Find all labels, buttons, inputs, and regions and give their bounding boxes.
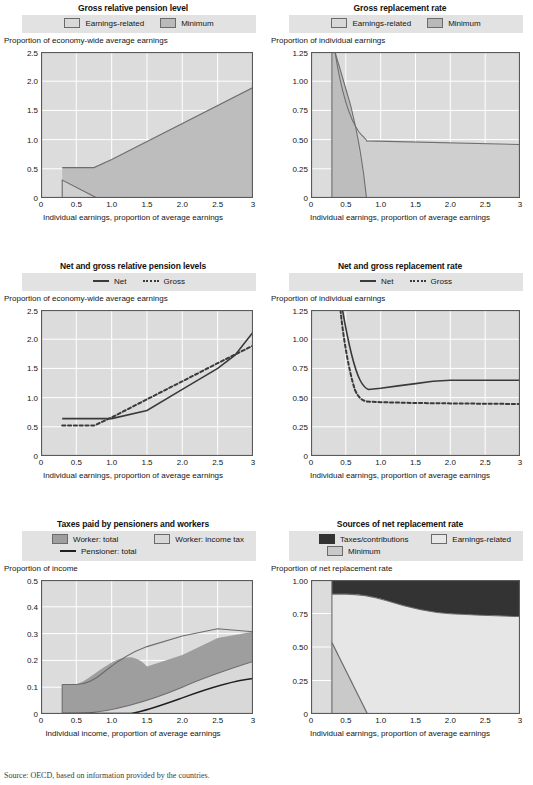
legend-item-minimum: Minimum	[327, 546, 380, 556]
legend-label: Pensioner: total	[81, 547, 137, 556]
chart-legend: Earnings-related Minimum	[22, 15, 256, 33]
panel-taxes-paid-by-pensioners-and-workers: Taxes paid by pensioners and workers Wor…	[0, 516, 266, 771]
chart-title: Gross replacement rate	[267, 3, 533, 13]
panel-sources-of-net-replacement-rate: Sources of net replacement rate Taxes/co…	[267, 516, 533, 771]
y-axis-title: Proportion of income	[4, 564, 78, 573]
chart-title: Net and gross replacement rate	[267, 261, 533, 271]
plot-svg	[311, 52, 520, 198]
y-axis-title: Proportion of net replacement rate	[271, 564, 392, 573]
x-tick: 0.5	[340, 458, 351, 467]
legend-item-minimum: Minimum	[427, 18, 480, 28]
plot-area: 0 0.1 0.2 0.3 0.4 0.5 0 0.5 1.0 1.5 2.0 …	[41, 580, 253, 714]
y-tick: 0.75	[292, 106, 308, 115]
plot-svg	[41, 52, 253, 198]
legend-label: Earnings-related	[352, 19, 411, 28]
legend-item-gross: Gross	[410, 277, 452, 286]
x-tick: 2.5	[212, 458, 223, 467]
chart-legend: Earnings-related Minimum	[289, 15, 523, 33]
solid-line-icon	[360, 280, 376, 282]
plot-area: 0 0.5 1.0 1.5 2.0 2.5 0 0.5 1.0 1.5 2.0 …	[41, 310, 253, 456]
x-tick: 0	[309, 200, 313, 209]
y-axis-title: Proportion of economy-wide average earni…	[4, 294, 168, 303]
legend-item-earnings-related: Earnings-related	[64, 18, 144, 28]
y-tick: 0.75	[292, 364, 308, 373]
legend-swatch-icon	[154, 534, 170, 544]
y-tick: 0	[34, 452, 38, 461]
y-tick: 0.1	[27, 683, 38, 692]
x-tick: 1.5	[410, 458, 421, 467]
legend-item-gross: Gross	[143, 277, 185, 286]
source-note: Source: OECD, based on information provi…	[4, 771, 210, 780]
y-tick: 0.50	[292, 135, 308, 144]
x-tick: 0.5	[71, 716, 82, 725]
legend-swatch-icon	[319, 534, 335, 544]
legend-label: Gross	[431, 277, 452, 286]
legend-label: Net	[114, 277, 126, 286]
panel-gross-replacement-rate: Gross replacement rate Earnings-related …	[267, 0, 533, 255]
y-tick: 1.25	[292, 49, 308, 58]
dotted-line-icon	[410, 280, 426, 282]
y-tick: 1.00	[292, 77, 308, 86]
solid-line-icon	[93, 280, 109, 282]
x-tick: 1.5	[141, 716, 152, 725]
plot-svg	[41, 310, 253, 456]
x-axis-title: Individual earnings, proportion of avera…	[0, 213, 266, 222]
y-tick: 0	[34, 710, 38, 719]
legend-item-pensioner-total: Pensioner: total	[60, 547, 137, 556]
legend-label: Minimum	[448, 19, 480, 28]
x-tick: 3	[251, 458, 255, 467]
y-tick: 2.0	[27, 335, 38, 344]
legend-swatch-icon	[427, 18, 443, 28]
y-tick: 0.25	[292, 164, 308, 173]
y-axis-title: Proportion of individual earnings	[271, 294, 385, 303]
chart-title: Net and gross relative pension levels	[0, 261, 266, 271]
x-axis-title: Individual earnings, proportion of avera…	[267, 213, 533, 222]
x-tick: 2.5	[480, 458, 491, 467]
chart-legend: Net Gross	[289, 273, 523, 291]
x-tick: 3	[518, 716, 522, 725]
x-tick: 2.0	[445, 716, 456, 725]
x-axis-title: Individual earnings, proportion of avera…	[267, 729, 533, 738]
x-tick: 3	[518, 200, 522, 209]
legend-label: Minimum	[348, 547, 380, 556]
x-tick: 1.5	[410, 716, 421, 725]
y-axis-title: Proportion of economy-wide average earni…	[4, 36, 168, 45]
x-tick: 0	[309, 716, 313, 725]
chart-legend: Taxes/contributions Earnings-related Min…	[289, 531, 523, 561]
y-tick: 0	[304, 194, 308, 203]
y-tick: 0	[304, 710, 308, 719]
legend-swatch-icon	[160, 18, 176, 28]
dotted-line-icon	[143, 280, 159, 282]
legend-label: Taxes/contributions	[340, 535, 408, 544]
y-tick: 0.50	[292, 643, 308, 652]
solid-line-icon	[60, 550, 76, 552]
legend-item-earnings-related: Earnings-related	[331, 18, 411, 28]
plot-svg	[311, 310, 520, 456]
chart-title: Sources of net replacement rate	[267, 519, 533, 529]
plot-svg	[41, 580, 253, 714]
chart-title: Gross relative pension level	[0, 3, 266, 13]
x-tick: 3	[251, 200, 255, 209]
legend-item-worker-total: Worker: total	[52, 534, 146, 544]
y-tick: 0.2	[27, 656, 38, 665]
y-tick: 0	[304, 452, 308, 461]
y-tick: 0.25	[292, 676, 308, 685]
y-tick: 0.5	[27, 577, 38, 586]
legend-swatch-icon	[327, 546, 343, 556]
x-tick: 0.5	[340, 716, 351, 725]
y-tick: 1.0	[27, 393, 38, 402]
y-tick: 0.3	[27, 629, 38, 638]
x-tick: 2.5	[212, 200, 223, 209]
chart-legend: Worker: total Worker: income tax Pension…	[22, 531, 256, 561]
y-tick: 0.25	[292, 422, 308, 431]
plot-svg	[311, 580, 520, 714]
legend-label: Worker: total	[73, 535, 118, 544]
x-tick: 2.0	[445, 200, 456, 209]
legend-swatch-icon	[64, 18, 80, 28]
legend-item-taxes-contributions: Taxes/contributions	[319, 534, 423, 544]
x-tick: 0	[309, 458, 313, 467]
y-tick: 1.0	[27, 135, 38, 144]
x-tick: 2.5	[480, 716, 491, 725]
legend-item-net: Net	[93, 277, 126, 286]
x-tick: 0.5	[71, 458, 82, 467]
